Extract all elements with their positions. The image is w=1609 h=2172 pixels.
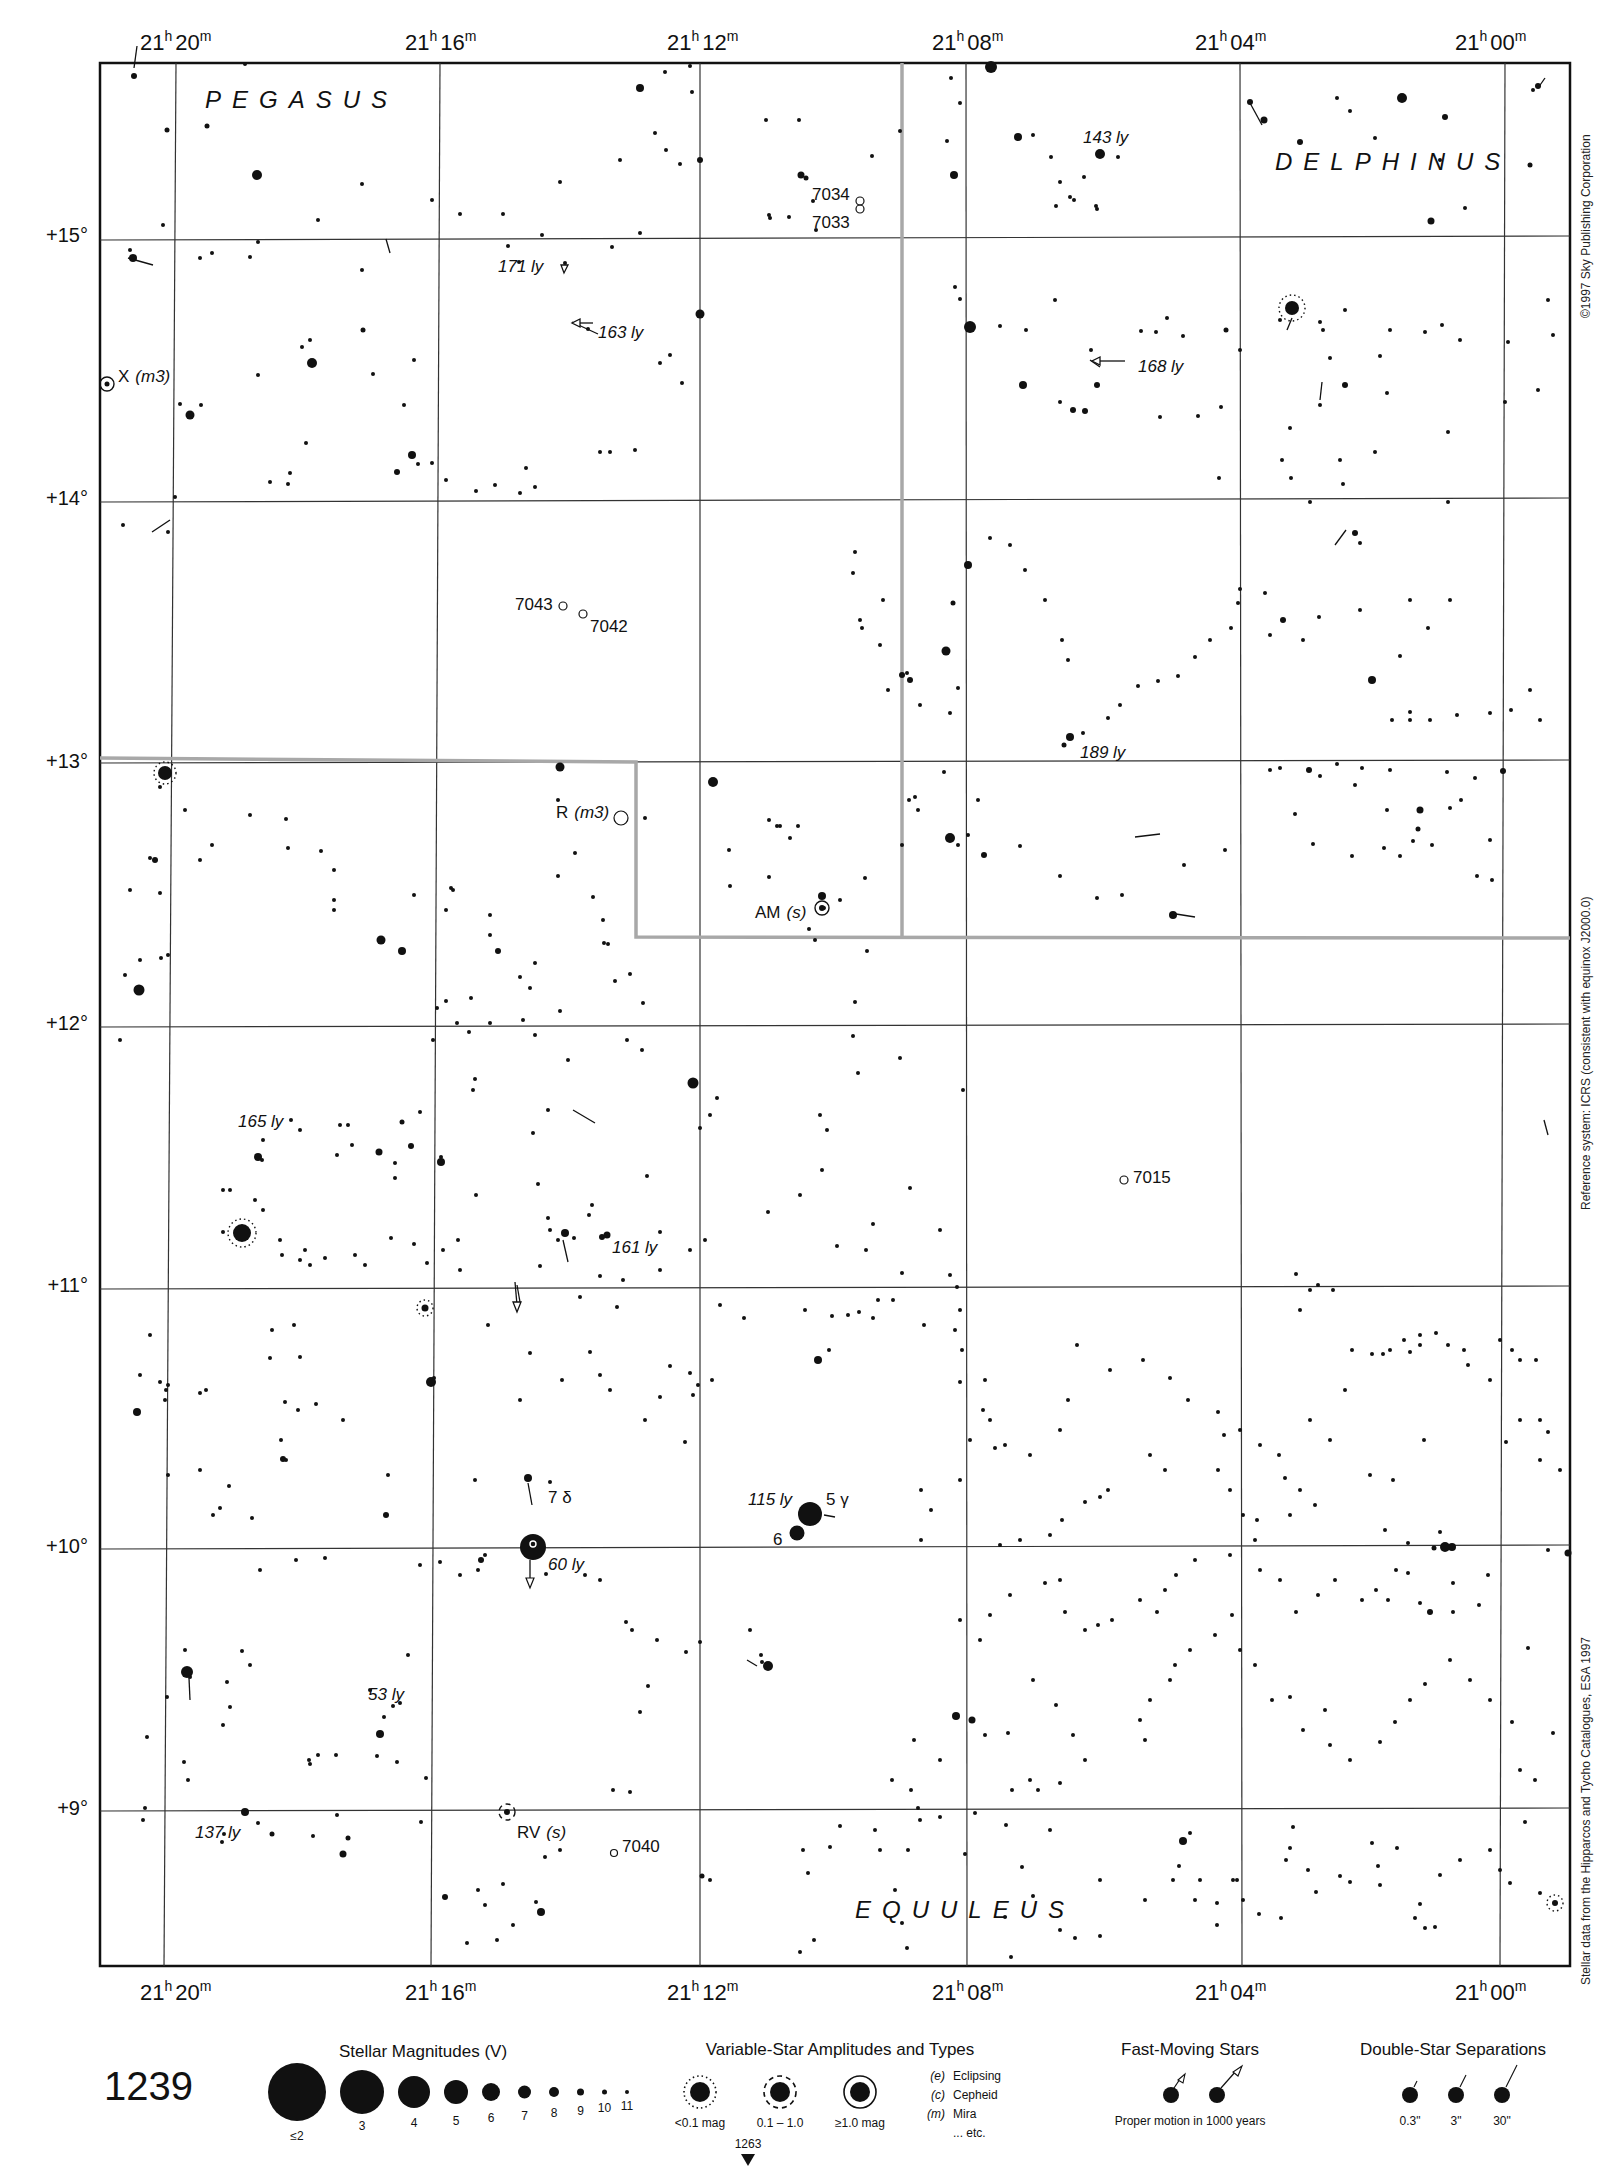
constellation-labels: PEGASUSDELPHINUSEQUULEUS (205, 86, 1511, 1923)
star (444, 908, 448, 912)
star (1546, 1548, 1550, 1552)
star (608, 1388, 612, 1392)
star (983, 1733, 987, 1737)
adjacent-chart-arrow-icon[interactable] (741, 2154, 755, 2166)
star (323, 1556, 327, 1560)
star (1215, 1923, 1219, 1927)
star (418, 1563, 422, 1567)
star (858, 618, 862, 622)
star (474, 489, 478, 493)
star (376, 1730, 384, 1738)
proper-motion-line (747, 1660, 757, 1666)
star (1235, 1878, 1239, 1882)
star (198, 1391, 202, 1395)
star (335, 1813, 339, 1817)
annotation-r-m3: R(m3) (556, 803, 609, 822)
star (909, 1788, 913, 1792)
star (1098, 1495, 1102, 1499)
star (389, 1236, 393, 1240)
star (1408, 598, 1412, 602)
star (1488, 1378, 1492, 1382)
chart-frame (100, 63, 1570, 1966)
star (698, 1126, 702, 1130)
star (424, 1776, 428, 1780)
star (653, 131, 657, 135)
proper-motion-line (1544, 1120, 1548, 1135)
star (1288, 426, 1292, 430)
star (813, 938, 817, 942)
star (973, 1811, 977, 1815)
star (678, 162, 682, 166)
star (486, 1323, 490, 1327)
adjacent-chart-below[interactable]: 1263 (735, 2137, 762, 2151)
star (289, 1118, 293, 1122)
star (353, 1253, 357, 1257)
star (863, 876, 867, 880)
star (1318, 774, 1322, 778)
star (1213, 1633, 1217, 1637)
star (1417, 807, 1424, 814)
star (376, 1149, 383, 1156)
star (1277, 1453, 1281, 1457)
star (643, 816, 647, 820)
magnitude-dot (340, 2070, 384, 2114)
star (1217, 476, 1221, 480)
star (830, 1314, 834, 1318)
star (456, 1238, 460, 1242)
star (250, 1516, 254, 1520)
star (288, 471, 292, 475)
star (1352, 530, 1358, 536)
star (1116, 155, 1120, 159)
star (1284, 1858, 1288, 1862)
star (958, 101, 962, 105)
star (1402, 1338, 1406, 1342)
star (1018, 1538, 1022, 1542)
star (1278, 766, 1282, 770)
star (1257, 1912, 1261, 1916)
star (1222, 1433, 1226, 1437)
proper-motion-line (1538, 78, 1545, 88)
star (131, 73, 137, 79)
star (128, 248, 132, 252)
magnitude-label: 7 (521, 2109, 528, 2123)
star (788, 836, 792, 840)
star (1350, 1348, 1354, 1352)
star (708, 1878, 712, 1882)
star (1498, 1868, 1502, 1872)
star (558, 180, 562, 184)
star (827, 1348, 831, 1352)
star (1446, 500, 1450, 504)
star (1459, 798, 1463, 802)
star (1228, 1553, 1232, 1557)
star (1288, 1695, 1292, 1699)
star (878, 643, 882, 647)
star (969, 1717, 976, 1724)
star (591, 895, 595, 899)
star (346, 1836, 351, 1841)
star (1043, 1581, 1047, 1585)
star (341, 1418, 345, 1422)
star (1378, 1883, 1382, 1887)
star (1060, 1518, 1064, 1522)
star (613, 979, 617, 983)
star (425, 1261, 429, 1265)
star (441, 1248, 445, 1252)
star (1393, 1720, 1397, 1724)
star (767, 818, 771, 822)
star-7-delta (520, 1534, 546, 1588)
star (964, 561, 972, 569)
star (1506, 340, 1510, 344)
constellation-delphinus: DELPHINUS (1275, 148, 1511, 175)
star (658, 361, 662, 365)
star (1348, 109, 1352, 113)
ra-label: 21h08m (932, 28, 1003, 55)
magnitude-label: 11 (621, 2099, 634, 2113)
star (658, 1268, 662, 1272)
star (408, 1143, 414, 1149)
star (611, 1788, 615, 1792)
star (221, 1723, 225, 1727)
star (248, 255, 252, 259)
star (488, 933, 492, 937)
proper-motion-line (563, 1240, 568, 1262)
star (1418, 1343, 1422, 1347)
